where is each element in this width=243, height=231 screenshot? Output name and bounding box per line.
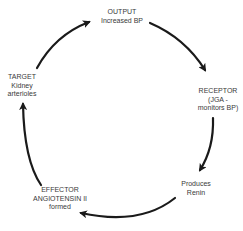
node-target: TARGET Kidney arterioles: [8, 73, 37, 99]
node-effector: EFFECTOR ANGIOTENSIN II formed: [33, 186, 87, 212]
arrow-target-to-output: [37, 22, 89, 68]
node-receptor-line-1: RECEPTOR: [198, 87, 238, 96]
node-target-line-1: TARGET: [8, 73, 37, 82]
node-target-line-2: Kidney: [8, 82, 37, 91]
arrow-output-to-receptor: [150, 23, 205, 70]
node-receptor-line-3: monitors BP): [198, 104, 238, 113]
node-output-line-1: OUTPUT: [101, 8, 143, 17]
node-output-line-2: Increased BP: [101, 17, 143, 26]
node-receptor-line-2: (JGA -: [198, 96, 238, 105]
arrow-effector-to-target: [23, 104, 41, 185]
node-effector-line-3: formed: [33, 203, 87, 212]
node-target-line-3: arterioles: [8, 90, 37, 99]
feedback-cycle-diagram: OUTPUT Increased BP RECEPTOR (JGA - moni…: [0, 0, 243, 231]
node-effector-line-2: ANGIOTENSIN II: [33, 195, 87, 204]
node-output: OUTPUT Increased BP: [101, 8, 143, 25]
node-renin-line-2: Renin: [181, 189, 211, 198]
node-renin-line-1: Produces: [181, 180, 211, 189]
node-receptor: RECEPTOR (JGA - monitors BP): [198, 87, 238, 113]
arrow-receptor-to-renin: [200, 118, 213, 170]
node-effector-line-1: EFFECTOR: [33, 186, 87, 195]
arrow-renin-to-effector: [81, 198, 175, 217]
node-renin: Produces Renin: [181, 180, 211, 197]
